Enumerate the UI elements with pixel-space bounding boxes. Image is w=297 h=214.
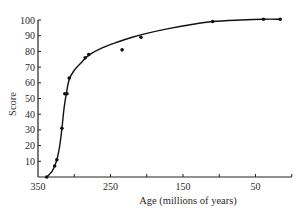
y-axis-label: Score — [7, 92, 18, 116]
data-point — [87, 53, 91, 57]
x-tick-label: 50 — [251, 181, 261, 192]
y-tick-label: 60 — [25, 77, 35, 88]
axes — [38, 20, 292, 177]
y-tick-label: 100 — [20, 15, 35, 26]
data-point — [60, 127, 64, 131]
data-point — [139, 35, 143, 39]
chart: 102030405060708090100 35025015050 Age (m… — [0, 0, 297, 214]
y-tick-label: 10 — [25, 156, 35, 167]
data-point — [55, 158, 59, 162]
y-tick-label: 50 — [25, 93, 35, 104]
curves — [47, 19, 280, 177]
points — [45, 17, 282, 178]
x-axis-label: Age (millions of years) — [139, 195, 237, 207]
data-point — [53, 164, 57, 168]
data-point — [83, 56, 87, 60]
data-point — [278, 17, 282, 21]
y-tick-label: 30 — [25, 124, 35, 135]
data-point — [45, 175, 49, 179]
x-tick-label: 350 — [31, 181, 46, 192]
data-point — [211, 20, 215, 24]
x-tick-label: 150 — [176, 181, 191, 192]
data-point — [67, 76, 71, 80]
data-point — [262, 17, 266, 21]
y-tick-label: 90 — [25, 30, 35, 41]
x-tick-label: 250 — [103, 181, 118, 192]
y-tick-label: 20 — [25, 140, 35, 151]
y-tick-label: 40 — [25, 109, 35, 120]
y-tick-label: 70 — [25, 62, 35, 73]
fitted-curve — [47, 19, 280, 177]
data-point — [65, 92, 69, 96]
data-point — [120, 48, 124, 52]
y-tick-label: 80 — [25, 46, 35, 57]
